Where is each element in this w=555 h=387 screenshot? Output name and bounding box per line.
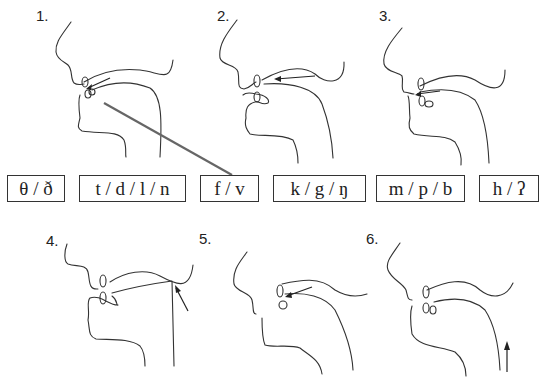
sound-label-alveolar: t / d / l / n	[79, 175, 186, 202]
sound-label-glottal: h / ʔ	[479, 175, 539, 202]
vocal-tract-panel-6	[387, 243, 513, 376]
panel-number-1: 1.	[36, 7, 49, 24]
panel-number-3: 3.	[379, 7, 392, 24]
panel-number-2: 2.	[217, 7, 230, 24]
vocal-tract-panel-1	[56, 22, 232, 175]
panel-number-4: 4.	[46, 232, 59, 249]
sound-label-dental: θ / ð	[7, 175, 65, 202]
vocal-tract-panel-5	[234, 252, 367, 374]
vocal-tract-panel-3	[384, 28, 505, 165]
sound-label-bilabial: m / p / b	[376, 175, 465, 202]
vocal-tract-panel-2	[220, 20, 344, 163]
sound-label-velar: k / g / ŋ	[273, 175, 366, 202]
vocal-tract-panel-4	[65, 244, 193, 366]
sound-label-labiodental: f / v	[200, 175, 259, 202]
panel-number-6: 6.	[366, 230, 379, 247]
panel-number-5: 5.	[199, 230, 212, 247]
